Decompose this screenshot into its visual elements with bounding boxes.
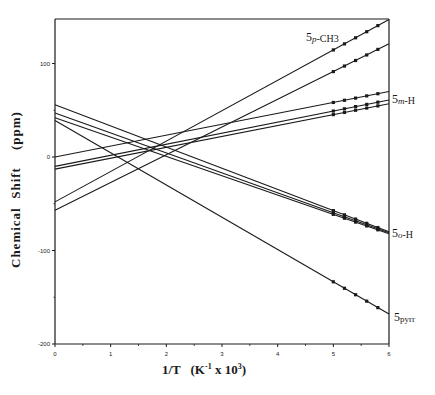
data-marker <box>354 59 357 62</box>
series-label-pyrr: 5pyrr <box>394 310 415 325</box>
data-marker <box>332 101 335 104</box>
x-tick-label: 5 <box>332 351 336 357</box>
data-marker <box>354 105 357 108</box>
data-marker <box>376 24 379 27</box>
data-marker <box>365 106 368 109</box>
series-label-subscript: m-H <box>398 96 415 106</box>
series-label-subscript: p-CH3 <box>312 34 339 44</box>
x-tick-label: 3 <box>220 351 224 357</box>
data-marker <box>365 224 368 227</box>
data-marker <box>343 217 346 220</box>
data-marker <box>376 228 379 231</box>
data-marker <box>332 70 335 73</box>
y-tick-label: -200 <box>38 341 51 347</box>
data-marker <box>343 107 346 110</box>
data-marker <box>332 113 335 116</box>
series-line <box>55 104 389 169</box>
data-marker <box>365 94 368 97</box>
y-tick-label: 100 <box>40 61 51 67</box>
y-tick-label: 0 <box>47 154 51 160</box>
y-axis-label-container: Chemical Shift (ppm) <box>8 268 28 395</box>
data-marker <box>332 280 335 283</box>
data-marker <box>376 306 379 309</box>
data-marker <box>365 300 368 303</box>
series-label-o: 5o-H <box>392 226 413 241</box>
series-label-suffix: -H <box>403 229 414 240</box>
data-marker <box>365 53 368 56</box>
data-marker <box>376 92 379 95</box>
data-marker <box>343 287 346 290</box>
data-marker <box>376 48 379 51</box>
data-marker <box>354 96 357 99</box>
x-tick-label: 2 <box>165 351 169 357</box>
data-marker <box>343 64 346 67</box>
data-marker <box>343 111 346 114</box>
data-marker <box>376 104 379 107</box>
series-label-subscript: o-H <box>398 230 413 240</box>
data-marker <box>332 48 335 51</box>
series-label-m: 5m-H <box>392 92 415 107</box>
data-marker <box>365 30 368 33</box>
series-label-suffix: -CH3 <box>317 33 339 44</box>
x-tick-label: 4 <box>276 351 280 357</box>
series-line <box>55 44 389 210</box>
data-marker <box>365 103 368 106</box>
series-line <box>55 105 389 232</box>
series-line <box>55 121 389 315</box>
data-marker <box>354 220 357 223</box>
data-marker <box>343 99 346 102</box>
x-tick-label: 6 <box>387 351 391 357</box>
data-marker <box>343 42 346 45</box>
series-line <box>55 20 389 202</box>
data-marker <box>332 213 335 216</box>
x-tick-label: 1 <box>109 351 113 357</box>
series-label-subscript: pyrr <box>400 314 415 324</box>
series-line <box>55 113 389 233</box>
series-line <box>55 100 389 166</box>
data-marker <box>354 293 357 296</box>
data-marker <box>354 36 357 39</box>
y-axis-label: Chemical Shift (ppm) <box>8 111 24 268</box>
series-line <box>55 118 389 234</box>
data-marker <box>332 109 335 112</box>
series-label-suffix: -H <box>405 95 416 106</box>
x-axis-label-main: 1/T (K-1 x 103) <box>162 362 246 377</box>
x-axis-label: 1/T (K-1 x 103) <box>162 362 246 378</box>
chart-plot: 0123456-200-1000100 <box>0 0 435 395</box>
data-marker <box>376 101 379 104</box>
series-label-p: 5p-CH3 <box>306 30 339 45</box>
y-tick-label: -100 <box>38 248 51 254</box>
x-tick-label: 0 <box>53 351 57 357</box>
data-marker <box>354 109 357 112</box>
